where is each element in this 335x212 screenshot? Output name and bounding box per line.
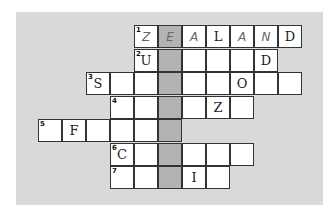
cell-letter: S (94, 76, 103, 91)
cell-letter: N (262, 30, 271, 44)
crossword-cell[interactable]: 7 (110, 166, 134, 189)
crossword-cell[interactable]: A (230, 25, 254, 48)
crossword-cell[interactable] (182, 49, 206, 72)
cell-letter: Z (213, 100, 222, 115)
crossword-cell[interactable] (230, 49, 254, 72)
crossword-cell[interactable]: 6C (110, 143, 134, 166)
crossword-cell[interactable]: 1Z (134, 25, 158, 48)
crossword-cell[interactable] (206, 49, 230, 72)
clue-number: 2 (136, 50, 141, 58)
clue-number: 7 (112, 167, 117, 175)
crossword-cell[interactable] (134, 96, 158, 119)
crossword-cell[interactable]: 3S (86, 72, 110, 95)
clue-number: 6 (112, 144, 117, 152)
crossword-cell[interactable] (182, 72, 206, 95)
crossword-cell[interactable]: F (62, 119, 86, 142)
crossword-cell[interactable] (158, 96, 182, 119)
crossword-cell[interactable] (206, 72, 230, 95)
cell-letter: A (190, 30, 198, 44)
crossword-cell[interactable]: A (182, 25, 206, 48)
cell-letter: O (237, 76, 248, 91)
clue-number: 4 (112, 97, 117, 105)
crossword-cell[interactable] (206, 143, 230, 166)
crossword-cell[interactable] (254, 72, 278, 95)
cell-letter: F (69, 123, 78, 138)
clue-number: 1 (136, 26, 141, 34)
cell-letter: I (191, 170, 196, 185)
crossword-cell[interactable]: 4 (110, 96, 134, 119)
crossword-cell[interactable] (182, 96, 206, 119)
crossword-cell[interactable] (134, 72, 158, 95)
crossword-cell[interactable] (230, 96, 254, 119)
crossword-cell[interactable]: 2U (134, 49, 158, 72)
crossword-cell[interactable] (86, 119, 110, 142)
crossword-cell[interactable] (158, 166, 182, 189)
cell-letter: D (261, 53, 271, 68)
crossword-cell[interactable]: 5 (38, 119, 62, 142)
crossword-cell[interactable] (110, 119, 134, 142)
crossword-cell[interactable]: E (158, 25, 182, 48)
crossword-cell[interactable] (158, 72, 182, 95)
crossword-cell[interactable] (134, 119, 158, 142)
crossword-cell[interactable] (110, 72, 134, 95)
crossword-cell[interactable] (158, 49, 182, 72)
cell-letter: C (117, 147, 127, 162)
cell-letter: U (141, 53, 152, 68)
crossword-cell[interactable] (158, 143, 182, 166)
crossword-cell[interactable] (278, 72, 302, 95)
crossword-cell[interactable]: Z (206, 96, 230, 119)
crossword-panel: 1ZEALAND2UD3SO4Z5F6C7I (16, 12, 323, 205)
crossword-cell[interactable]: I (182, 166, 206, 189)
crossword-cell[interactable] (158, 119, 182, 142)
clue-number: 5 (40, 120, 45, 128)
crossword-cell[interactable]: N (254, 25, 278, 48)
crossword-cell[interactable] (182, 143, 206, 166)
crossword-cell[interactable] (134, 166, 158, 189)
crossword-cell[interactable]: D (254, 49, 278, 72)
crossword-cell[interactable] (230, 143, 254, 166)
crossword-cell[interactable] (206, 166, 230, 189)
clue-number: 3 (88, 73, 93, 81)
cell-letter: L (214, 29, 223, 44)
crossword-cell[interactable]: O (230, 72, 254, 95)
crossword-cell[interactable]: L (206, 25, 230, 48)
cell-letter: D (285, 29, 295, 44)
crossword-cell[interactable] (134, 143, 158, 166)
cell-letter: Z (142, 30, 150, 44)
crossword-cell[interactable]: D (278, 25, 302, 48)
cell-letter: E (166, 30, 174, 44)
cell-letter: A (238, 30, 246, 44)
